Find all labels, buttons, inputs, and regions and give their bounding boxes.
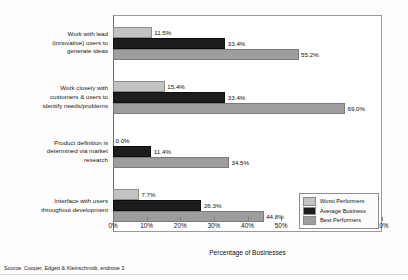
bar-value-label: 34.5% — [232, 157, 250, 168]
footer-divider — [0, 274, 408, 275]
x-axis-tick — [147, 217, 148, 221]
x-axis-tick — [113, 217, 114, 221]
horizontal-bar-chart: Work with lead(innovative) users togener… — [0, 0, 408, 280]
legend-label: Average Business — [320, 208, 366, 214]
x-axis-tick-label: 40% — [233, 222, 263, 229]
bar-best — [113, 211, 264, 222]
x-axis-tick — [248, 217, 249, 221]
bar-value-label: 11.4% — [154, 146, 171, 157]
legend-swatch — [303, 216, 316, 225]
bar-average — [113, 200, 201, 211]
x-axis-tick-label: 10% — [132, 222, 162, 229]
bar-value-label: 69.0% — [348, 103, 366, 114]
bar-best — [113, 49, 299, 60]
bar-average — [113, 38, 225, 49]
bar-best — [113, 157, 229, 168]
legend-item: Worst Performers — [303, 197, 375, 207]
legend-label: Worst Performers — [320, 198, 364, 204]
legend-item: Average Business — [303, 206, 375, 216]
source-citation: Source: Cooper, Edgett & Kleinschmidt, e… — [4, 265, 126, 271]
x-axis-tick — [214, 217, 215, 221]
bar-best — [113, 103, 345, 114]
x-axis-tick-label: 50% — [266, 222, 296, 229]
bar-average — [113, 92, 225, 103]
bar-value-label: 33.4% — [228, 92, 246, 103]
legend-swatch — [303, 197, 316, 206]
x-axis-tick — [382, 217, 383, 221]
bar-value-label: 7.7% — [141, 189, 155, 200]
legend-swatch — [303, 207, 316, 216]
x-axis-tick-label: 0% — [98, 222, 128, 229]
category-label: Interface with usersthroughout developme… — [1, 197, 108, 214]
category-label: Product definition isdetermined via mark… — [1, 139, 108, 165]
bar-value-label: 33.4% — [228, 38, 246, 49]
category-label: Work closely withcustomers & users toide… — [1, 84, 108, 110]
bar-value-label: 0.0% — [116, 135, 130, 146]
legend-label: Best Performers — [320, 217, 361, 223]
x-axis-tick-label: 20% — [165, 222, 195, 229]
bar-worst — [113, 189, 139, 200]
x-axis-tick — [281, 217, 282, 221]
chart-legend: Worst PerformersAverage BusinessBest Per… — [299, 193, 379, 229]
x-axis-tick-label: 30% — [199, 222, 229, 229]
x-axis-title: Percentage of Businesses — [113, 249, 382, 256]
category-label: Work with lead(innovative) users togener… — [1, 30, 108, 56]
bar-value-label: 11.5% — [154, 27, 171, 38]
bar-value-label: 15.4% — [167, 81, 185, 92]
bar-worst — [113, 27, 152, 38]
x-axis-tick — [180, 217, 181, 221]
bar-value-label: 26.3% — [204, 200, 222, 211]
bar-worst — [113, 81, 165, 92]
bar-average — [113, 146, 151, 157]
legend-item: Best Performers — [303, 216, 375, 226]
bar-value-label: 55.2% — [301, 49, 319, 60]
